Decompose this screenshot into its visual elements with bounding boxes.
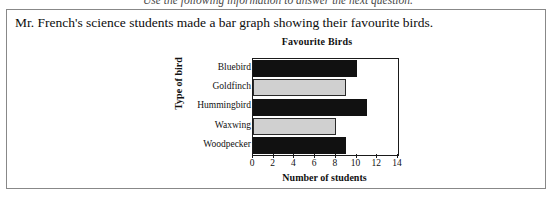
x-tick-label-10: 10 (351, 158, 361, 168)
x-axis-label: Number of students (212, 172, 437, 183)
category-label-hummingbird: Hummingbird (197, 96, 251, 115)
category-label-waxwing: Waxwing (215, 116, 251, 135)
question-box: Mr. French's science students made a bar… (6, 9, 546, 189)
plot-area (252, 58, 399, 156)
x-tick-label-6: 6 (312, 158, 317, 168)
bar-bluebird (253, 60, 357, 77)
chart-title: Favourite Birds (217, 36, 417, 47)
x-tick-label-2: 2 (270, 158, 275, 168)
bar-chart: Favourite Birds Type of bird Bluebird Go… (157, 36, 417, 186)
instruction-text: Use the following information to answer … (0, 0, 556, 6)
x-tick-label-4: 4 (291, 158, 296, 168)
instruction-strip: Use the following information to answer … (0, 0, 556, 9)
x-axis-ticks: 02468101214 (252, 154, 397, 159)
category-labels: Bluebird Goldfinch Hummingbird Waxwing W… (171, 58, 251, 154)
x-tick-label-14: 14 (392, 158, 402, 168)
x-tick-label-12: 12 (372, 158, 382, 168)
bar-waxwing (253, 118, 336, 135)
category-label-bluebird: Bluebird (218, 58, 251, 77)
category-label-woodpecker: Woodpecker (203, 135, 251, 154)
bar-woodpecker (253, 137, 346, 154)
x-tick-label-0: 0 (250, 158, 255, 168)
category-label-goldfinch: Goldfinch (212, 77, 251, 96)
question-stem: Mr. French's science students made a bar… (15, 15, 433, 31)
bar-goldfinch (253, 79, 346, 96)
x-tick-label-8: 8 (332, 158, 337, 168)
bar-hummingbird (253, 99, 367, 116)
